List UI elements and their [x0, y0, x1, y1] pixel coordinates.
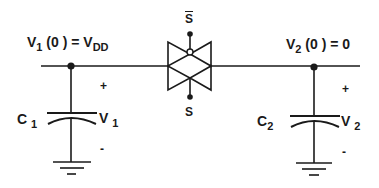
c1-label: C 1 [17, 112, 37, 126]
switch-label: S [185, 106, 193, 118]
node-v2 [310, 63, 317, 70]
v1-label: V 1 [99, 111, 118, 125]
gate-terminal-s [187, 94, 193, 100]
gate-terminal-sbar [187, 31, 193, 37]
inversion-bubble [187, 49, 193, 55]
capacitor-c1 [47, 66, 97, 162]
node-v1 [67, 62, 74, 69]
v2-initial-label: V2 (0 ) = 0 [286, 37, 350, 51]
c2-label: C2 [257, 114, 273, 128]
capacitor-c2 [290, 66, 340, 163]
v2-plus-sign: + [342, 83, 349, 95]
switch-bar-label: S [185, 13, 193, 25]
v1-plus-sign: + [100, 80, 107, 92]
v1-initial-label: V1 (0 ) = VDD [27, 35, 109, 49]
v1-minus-sign: - [100, 143, 104, 155]
ground-icon-c2 [296, 163, 332, 175]
circuit-diagram [0, 0, 379, 188]
v2-label: V 2 [341, 114, 360, 128]
v2-minus-sign: - [342, 146, 346, 158]
transmission-gate-switch [168, 34, 211, 97]
ground-icon-c1 [53, 162, 91, 174]
